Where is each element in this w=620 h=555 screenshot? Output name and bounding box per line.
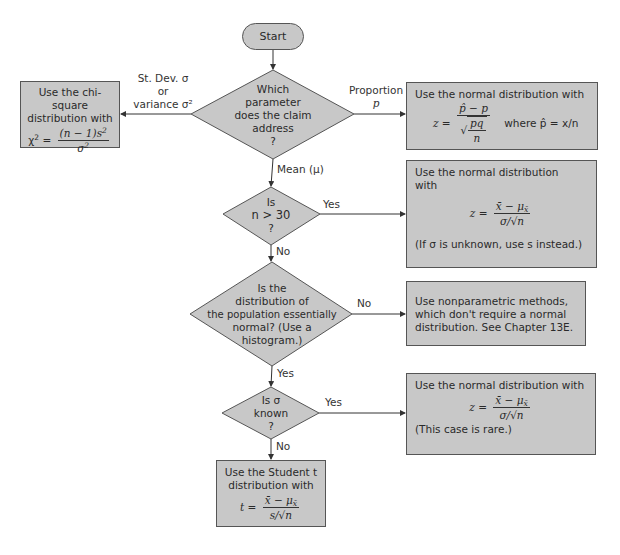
- formula-denominator: σ/√n: [498, 214, 526, 228]
- arrow-normal-yes: [271, 366, 272, 386]
- branch-label-n30-yes: Yes: [323, 198, 340, 211]
- branch-label-sigma-no: No: [276, 440, 290, 453]
- start-terminal: Start: [242, 23, 304, 50]
- branch-label-n30-no: No: [276, 245, 290, 258]
- formula-denominator: σ2: [75, 141, 91, 155]
- formula-lhs: z =: [470, 207, 491, 219]
- formula-fraction: x̄ − μx̄σ/√n: [493, 394, 529, 422]
- outcome-note: (If σ is unknown, use s instead.): [415, 238, 596, 251]
- chi-square-formula: χ2 = (n − 1)s2σ2: [21, 127, 119, 155]
- decision-parameter-text: Which parameter does the claim address ?: [234, 83, 311, 148]
- outcome-text: Use the normal distribution: [415, 166, 596, 179]
- outcome-text: Use the Student t: [217, 466, 325, 479]
- branch-label-line: variance σ²: [128, 98, 198, 111]
- numerator-text: x̄ − μ: [265, 494, 293, 506]
- branch-label-line: Proportion: [346, 84, 406, 97]
- formula-sub: x̄: [293, 499, 297, 508]
- decision-line: n > 30: [252, 209, 291, 222]
- decision-line: Which: [234, 83, 311, 96]
- outcome-text: with: [415, 179, 596, 192]
- branch-label-sigma-yes: Yes: [325, 396, 342, 409]
- formula-lhs: t =: [240, 501, 260, 513]
- decision-line: ?: [234, 135, 311, 148]
- outcome-text: Use the normal distribution with: [415, 379, 595, 392]
- outcome-text: distribution with: [217, 479, 325, 492]
- proportion-where: where p̂ = x/n: [504, 117, 578, 129]
- branch-label-normal-yes: Yes: [277, 367, 294, 380]
- decision-line: normal? (Use a: [207, 321, 336, 334]
- decision-line: the population essentially: [207, 308, 336, 321]
- large-n-formula: z = x̄ − μx̄σ/√n: [415, 200, 596, 228]
- formula-denominator: √pqn: [458, 116, 488, 145]
- formula-sup: 2: [84, 141, 89, 150]
- formula-denominator: σ/√n: [497, 408, 525, 422]
- decision-line: does the claim: [234, 109, 311, 122]
- decision-line: distribution of: [207, 295, 336, 308]
- decision-line: parameter: [234, 96, 311, 109]
- formula-numerator: x̄ − μx̄: [493, 394, 529, 408]
- outcome-text: distribution. See Chapter 13E.: [415, 321, 585, 334]
- decision-line: ?: [252, 222, 291, 235]
- sigma-known-formula: z = x̄ − μx̄σ/√n: [415, 394, 595, 422]
- outcome-text: Use the normal distribution with: [415, 88, 597, 101]
- branch-label-line: p: [346, 97, 406, 110]
- student-t-formula: t = x̄ − μx̄s/√n: [217, 494, 325, 522]
- formula-sub: x̄: [524, 205, 528, 214]
- formula-sub: x̄: [524, 399, 528, 408]
- outcome-text: which don't require a normal: [415, 308, 585, 321]
- branch-label-stdev: St. Dev. σ or variance σ²: [128, 72, 198, 111]
- formula-denominator: s/√n: [268, 508, 294, 522]
- formula-numerator: x̄ − μx̄: [263, 494, 299, 508]
- outcome-text: distribution with: [21, 112, 119, 125]
- decision-line: address: [234, 122, 311, 135]
- outcome-text: Use nonparametric methods,: [415, 295, 585, 308]
- outcome-text: Use the chi-square: [21, 86, 119, 112]
- formula-fraction: (n − 1)s2σ2: [58, 127, 109, 155]
- formula-fraction: x̄ − μx̄σ/√n: [494, 200, 530, 228]
- decision-line: ?: [254, 420, 288, 433]
- decision-line: known: [254, 407, 288, 420]
- branch-label-line: St. Dev. σ: [128, 72, 198, 85]
- branch-label-proportion: Proportion p: [346, 84, 406, 110]
- formula-sup: 2: [102, 126, 107, 135]
- numerator-text: x̄ − μ: [495, 394, 523, 406]
- outcome-nonparametric: Use nonparametric methods, which don't r…: [406, 281, 586, 346]
- decision-sigma-known-text: Is σ known ?: [254, 394, 288, 433]
- outcome-note: (This case is rare.): [415, 423, 595, 436]
- formula-numerator: p̂ − p: [457, 102, 490, 116]
- formula-numerator: (n − 1)s2: [58, 127, 109, 141]
- decision-n-gt-30-text: Is n > 30 ?: [252, 196, 291, 235]
- branch-label-line: or: [128, 85, 198, 98]
- numerator-text: x̄ − μ: [496, 200, 524, 212]
- decision-line: histogram.): [207, 334, 336, 347]
- formula-fraction: x̄ − μx̄s/√n: [263, 494, 299, 522]
- sqrt-denominator: n: [471, 131, 482, 145]
- formula-numerator: x̄ − μx̄: [494, 200, 530, 214]
- formula-lhs: z =: [469, 401, 490, 413]
- outcome-proportion: Use the normal distribution with z = p̂ …: [406, 82, 598, 150]
- decision-line: Is σ: [254, 394, 288, 407]
- decision-normal-text: Is the distribution of the population es…: [207, 282, 336, 347]
- formula-lhs: z =: [433, 117, 454, 129]
- proportion-formula: z = p̂ − p√pqn where p̂ = x/n: [415, 102, 597, 145]
- formula-fraction: p̂ − p√pqn: [457, 102, 490, 145]
- branch-label-mean: Mean (μ): [277, 163, 324, 176]
- sqrt-numerator: pq: [468, 117, 485, 131]
- formula-eq: =: [39, 134, 54, 146]
- decision-line: Is the: [207, 282, 336, 295]
- branch-label-normal-no: No: [357, 297, 371, 310]
- numerator-text: (n − 1)s: [60, 127, 103, 139]
- outcome-chi-square: Use the chi-square distribution with χ2 …: [20, 81, 120, 148]
- outcome-large-n: Use the normal distribution with z = x̄ …: [406, 160, 597, 268]
- outcome-student-t: Use the Student t distribution with t = …: [216, 460, 326, 527]
- arrow-mean: [271, 159, 273, 186]
- outcome-sigma-known: Use the normal distribution with z = x̄ …: [406, 373, 596, 455]
